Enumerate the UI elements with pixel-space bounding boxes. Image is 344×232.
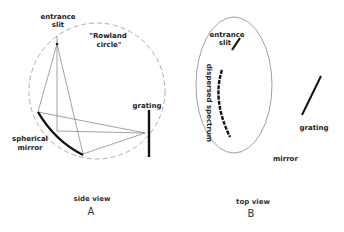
panel-b-top-view: entrance slit dispersed spectrum mirror … <box>196 17 328 219</box>
ray-lines <box>38 44 145 154</box>
entrance-slit-point <box>56 43 59 46</box>
label-entrance-slit-1: entrance <box>40 13 75 21</box>
caption-letter-a: A <box>88 206 95 217</box>
label-entrance-slit-1: entrance <box>209 31 244 39</box>
label-grating: grating <box>133 102 162 110</box>
label-spherical-mirror-1: spherical <box>12 135 48 143</box>
label-entrance-slit-2: slit <box>219 39 232 47</box>
grating-line <box>302 76 321 115</box>
caption-top-view: top view <box>236 198 270 206</box>
label-mirror: mirror <box>273 155 298 163</box>
panel-a-side-view: entrance slit "Rowland circle" grating s… <box>12 13 165 217</box>
label-entrance-slit-2: slit <box>52 21 65 29</box>
caption-letter-b: B <box>248 208 255 219</box>
label-dispersed-spectrum: dispersed spectrum <box>205 64 213 142</box>
label-rowland-1: "Rowland <box>89 32 126 40</box>
entrance-slit-segment <box>232 38 240 50</box>
dispersed-spectrum-arc <box>218 70 230 137</box>
label-spherical-mirror-2: mirror <box>18 144 43 152</box>
spectrometer-diagram: entrance slit "Rowland circle" grating s… <box>0 0 344 232</box>
label-rowland-2: circle" <box>97 41 122 49</box>
label-grating: grating <box>300 124 329 132</box>
caption-side-view: side view <box>74 195 111 203</box>
